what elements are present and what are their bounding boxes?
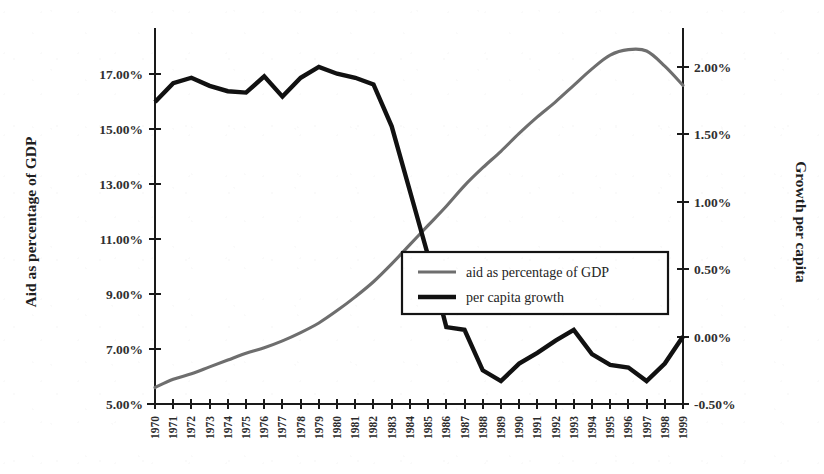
right-axis-tick-label: 0.00% — [694, 330, 731, 345]
right-axis-tick-label: -0.50% — [694, 397, 736, 412]
chart-legend: aid as percentage of GDP per capita grow… — [402, 252, 668, 314]
chart-container: 5.00%7.00%9.00%11.00%13.00%15.00%17.00% … — [0, 0, 824, 474]
x-axis-tick-label: 1986 — [440, 416, 452, 439]
x-axis-tick-label: 1977 — [276, 416, 288, 439]
x-axis-tick-label: 1989 — [495, 416, 507, 439]
x-axis-tick-label: 1985 — [422, 416, 434, 439]
series-line-per-capita-growth — [155, 67, 683, 381]
x-axis-tick-label: 1979 — [313, 416, 325, 439]
x-axis-tick-label: 1990 — [513, 416, 525, 439]
left-axis-tick-label: 17.00% — [99, 67, 143, 82]
x-axis-tick-label: 1994 — [586, 416, 598, 439]
x-axis-tick-label: 1997 — [641, 416, 653, 439]
right-axis-tick-label: 0.50% — [694, 262, 731, 277]
left-axis-title: Aid as percentage of GDP — [22, 136, 39, 308]
x-axis-tick-label: 1984 — [404, 416, 416, 439]
x-axis-tick-label: 1999 — [677, 416, 689, 439]
left-axis-tick-label: 15.00% — [99, 122, 143, 137]
x-axis-tick-label: 1988 — [477, 416, 489, 439]
x-axis-tick-label: 1972 — [185, 416, 197, 439]
left-axis-tick-label: 7.00% — [106, 342, 143, 357]
x-axis-tick-label: 1998 — [659, 416, 671, 439]
x-axis-tick-label: 1970 — [149, 416, 161, 439]
x-axis-tick-label: 1975 — [240, 416, 252, 439]
dual-axis-line-chart: 5.00%7.00%9.00%11.00%13.00%15.00%17.00% … — [0, 0, 824, 474]
x-axis-tick-label: 1973 — [204, 416, 216, 439]
x-axis-tick-label: 1991 — [531, 416, 543, 439]
x-axis-tick-label: 1992 — [550, 416, 562, 439]
x-axis-tick-label: 1993 — [568, 416, 580, 439]
x-axis-tick-label: 1974 — [222, 416, 234, 439]
right-axis-tick-label: 2.00% — [694, 60, 731, 75]
left-axis-tick-label: 13.00% — [99, 177, 143, 192]
left-axis-tick-label: 11.00% — [100, 232, 143, 247]
legend-label-aid: aid as percentage of GDP — [466, 265, 609, 280]
x-axis-tick-label: 1978 — [295, 416, 307, 439]
left-axis-tick-label: 5.00% — [106, 397, 143, 412]
x-axis-tick-label: 1987 — [459, 416, 471, 439]
right-axis-tick-label: 1.50% — [694, 127, 731, 142]
right-axis-title: Growth per capita — [793, 161, 810, 283]
x-axis-tick-label: 1982 — [367, 416, 379, 439]
legend-label-growth: per capita growth — [466, 290, 564, 305]
x-axis-tick-label: 1981 — [349, 416, 361, 439]
x-axis-tick-label: 1971 — [167, 416, 179, 439]
x-axis-tick-label: 1995 — [604, 416, 616, 439]
x-axis-tick-label: 1996 — [622, 416, 634, 439]
x-axis-tick-label: 1976 — [258, 416, 270, 439]
right-axis-tick-label: 1.00% — [694, 195, 731, 210]
left-axis: 5.00%7.00%9.00%11.00%13.00%15.00%17.00% — [99, 28, 161, 412]
right-axis: -0.50%0.00%0.50%1.00%1.50%2.00% — [677, 28, 736, 412]
x-axis: 1970197119721973197419751976197719781979… — [147, 399, 689, 439]
left-axis-tick-label: 9.00% — [106, 287, 143, 302]
x-axis-tick-label: 1983 — [386, 416, 398, 439]
x-axis-tick-label: 1980 — [331, 416, 343, 439]
